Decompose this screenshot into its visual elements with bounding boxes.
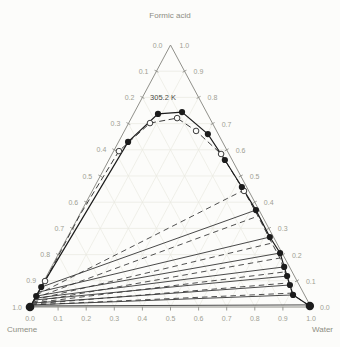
bottom-axis-tick-label: 0.3 bbox=[109, 315, 119, 322]
experimental-point bbox=[284, 273, 290, 279]
axis-ticks bbox=[42, 70, 299, 310]
bottom-axis-tick-label: 0.8 bbox=[250, 315, 260, 322]
experimental-point bbox=[33, 293, 39, 299]
experimental-point bbox=[179, 109, 185, 115]
right-axis-tick-label: 0.7 bbox=[222, 121, 232, 128]
calculated-point bbox=[218, 151, 224, 157]
left-axis-tick-label: 0.2 bbox=[125, 94, 135, 101]
tie-line-experimental bbox=[39, 237, 270, 292]
bottom-axis-tick-label: 1.0 bbox=[306, 315, 316, 322]
experimental-point bbox=[306, 302, 314, 310]
left-axis-tick-label: 0.0 bbox=[153, 42, 163, 49]
grid-line bbox=[58, 71, 184, 307]
left-axis-tick-label: 0.7 bbox=[54, 225, 64, 232]
bottom-axis-tick-label: 0.0 bbox=[25, 315, 35, 322]
experimental-point bbox=[281, 264, 287, 270]
right-axis-tick-label: 0.0 bbox=[320, 304, 330, 311]
experimental-point bbox=[205, 131, 211, 137]
plot-layers: 0.00.10.20.30.40.50.60.70.80.91.01.00.90… bbox=[12, 42, 330, 323]
calculated-point bbox=[116, 148, 122, 154]
experimental-point bbox=[277, 250, 283, 256]
bottom-axis-tick-label: 0.4 bbox=[138, 315, 148, 322]
left-axis-tick-label: 0.1 bbox=[139, 68, 149, 75]
bottom-left-vertex-label: Cumene bbox=[7, 325, 38, 334]
ternary-phase-diagram: 0.00.10.20.30.40.50.60.70.80.91.01.00.90… bbox=[0, 0, 340, 347]
right-axis-tick-label: 0.3 bbox=[278, 225, 288, 232]
bottom-axis-tick-label: 0.5 bbox=[166, 315, 176, 322]
right-axis-tick-label: 0.5 bbox=[250, 173, 260, 180]
calculated-point bbox=[147, 120, 153, 126]
tie-line-calculated bbox=[34, 243, 272, 300]
right-axis-tick-label: 0.6 bbox=[236, 147, 246, 154]
right-axis-tick-label: 0.9 bbox=[194, 68, 204, 75]
grid-line bbox=[128, 124, 226, 307]
left-axis-tick-label: 0.6 bbox=[68, 199, 78, 206]
right-axis-tick-label: 0.1 bbox=[306, 278, 316, 285]
grid-line bbox=[171, 176, 241, 307]
grid-line bbox=[227, 228, 269, 307]
left-axis-tick-label: 0.9 bbox=[26, 277, 36, 284]
experimental-point bbox=[239, 184, 245, 190]
temperature-annotation: 305.2 K bbox=[150, 93, 176, 102]
bottom-axis-tick-label: 0.1 bbox=[53, 315, 63, 322]
bottom-axis-tick-label: 0.9 bbox=[278, 315, 288, 322]
experimental-point bbox=[287, 282, 293, 288]
calculated-point bbox=[193, 128, 199, 134]
right-axis-tick-label: 1.0 bbox=[180, 42, 190, 49]
bottom-axis-tick-label: 0.2 bbox=[81, 315, 91, 322]
experimental-point bbox=[253, 207, 259, 213]
experimental-point bbox=[222, 157, 228, 163]
bottom-axis-tick-label: 0.6 bbox=[194, 315, 204, 322]
calculated-point bbox=[174, 115, 180, 121]
bottom-right-vertex-label: Water bbox=[312, 325, 333, 334]
experimental-point bbox=[267, 234, 273, 240]
top-vertex-label: Formic acid bbox=[149, 11, 190, 20]
experimental-point bbox=[155, 111, 161, 117]
experimental-point bbox=[38, 284, 44, 290]
tie-line-experimental bbox=[37, 253, 280, 296]
tie-line-experimental bbox=[31, 305, 309, 306]
left-axis-tick-label: 1.0 bbox=[12, 304, 22, 311]
calculated-point bbox=[42, 278, 48, 284]
left-axis-tick-label: 0.5 bbox=[83, 173, 93, 180]
experimental-point bbox=[26, 303, 35, 312]
experimental-point bbox=[125, 139, 131, 145]
bottom-axis-tick-label: 0.7 bbox=[222, 315, 232, 322]
right-axis-tick-label: 0.2 bbox=[292, 252, 302, 259]
left-axis-tick-label: 0.3 bbox=[111, 120, 121, 127]
experimental-point bbox=[290, 292, 296, 298]
left-axis-tick-label: 0.8 bbox=[40, 251, 50, 258]
right-axis-tick-label: 0.4 bbox=[264, 199, 274, 206]
left-axis-tick-label: 0.4 bbox=[97, 146, 107, 153]
right-axis-tick-label: 0.8 bbox=[208, 94, 218, 101]
